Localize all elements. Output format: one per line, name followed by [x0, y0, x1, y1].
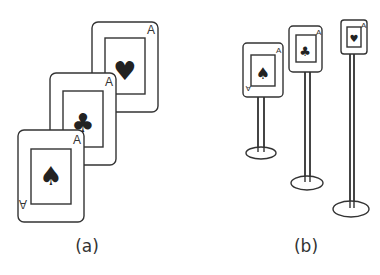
- rank-a-spade-inverted: A: [19, 197, 27, 211]
- spade-icon: ♠: [39, 161, 62, 191]
- rank-a-club: A: [105, 75, 113, 89]
- rank-b-heart: A: [361, 21, 367, 30]
- rank-b-spade-inverted: A: [245, 84, 251, 93]
- figure: A ♥ A ♣ A A ♠ A A ♠ A ♣ A ♥ (a) (b): [0, 0, 380, 275]
- panel-label-b: (b): [294, 236, 318, 256]
- rank-a-heart: A: [147, 23, 155, 37]
- rank-b-spade: A: [276, 46, 282, 55]
- spade-icon: ♠: [256, 64, 270, 83]
- card-b-spade-stand: [243, 43, 283, 159]
- heart-icon: ♥: [350, 33, 359, 44]
- heart-icon: ♥: [113, 56, 136, 86]
- rank-a-spade: A: [73, 133, 81, 147]
- card-b-heart-stand: [333, 20, 369, 217]
- rank-b-club: A: [316, 28, 322, 37]
- club-icon: ♣: [299, 44, 311, 59]
- panel-label-a: (a): [75, 236, 99, 256]
